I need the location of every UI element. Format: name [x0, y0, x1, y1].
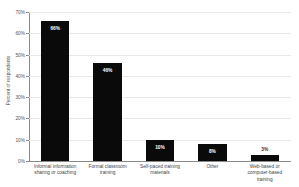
y-tick-mark	[26, 161, 29, 162]
plot-area: 0%10%20%30%40%50%60%70% 66%46%10%8%3%	[29, 12, 291, 161]
y-tick-label: 50%	[15, 52, 25, 57]
x-axis-category-label: Other	[186, 164, 238, 170]
y-tick-label: 10%	[15, 137, 25, 142]
y-axis-title: Percent of respondents	[2, 0, 16, 160]
y-tick-label: 30%	[15, 95, 25, 100]
bar-group[interactable]: 3%	[251, 12, 280, 161]
x-axis-category-line: training	[239, 177, 291, 183]
x-axis-category-line: Other	[186, 164, 238, 170]
bar-value-label: 46%	[93, 69, 122, 74]
x-axis-category-label: Web-based orcomputer-basedtraining	[239, 164, 291, 183]
y-tick-label: 60%	[15, 31, 25, 36]
bar-value-label: 3%	[251, 148, 280, 153]
x-axis-category-label: Self-paced trainingmaterials	[134, 164, 186, 177]
x-axis-category-line: training	[81, 170, 133, 176]
bars: 66%46%10%8%3%	[29, 12, 291, 161]
bar-group[interactable]: 66%	[41, 12, 70, 161]
y-tick-label: 70%	[15, 10, 25, 15]
y-tick-label: 0%	[18, 159, 25, 164]
bar-group[interactable]: 46%	[93, 12, 122, 161]
x-axis-category-label: Informal informationsharing or coaching	[29, 164, 81, 177]
bar-value-label: 66%	[41, 27, 70, 32]
y-axis-title-text: Percent of respondents	[7, 55, 12, 105]
x-axis-category-label: Formal classroomtraining	[81, 164, 133, 177]
bar-group[interactable]: 8%	[198, 12, 227, 161]
bar-value-label: 8%	[198, 150, 227, 155]
bar-chart: Percent of respondents 0%10%20%30%40%50%…	[0, 0, 299, 187]
x-axis-labels: Informal informationsharing or coachingF…	[29, 164, 291, 187]
bar-value-label: 10%	[146, 146, 175, 151]
bar[interactable]	[93, 63, 122, 161]
bar[interactable]	[41, 21, 70, 161]
x-axis-baseline	[29, 161, 291, 162]
bar[interactable]	[251, 155, 280, 161]
y-tick-label: 40%	[15, 73, 25, 78]
x-axis-category-line: sharing or coaching	[29, 170, 81, 176]
y-tick-label: 20%	[15, 116, 25, 121]
x-axis-category-line: materials	[134, 170, 186, 176]
bar-group[interactable]: 10%	[146, 12, 175, 161]
